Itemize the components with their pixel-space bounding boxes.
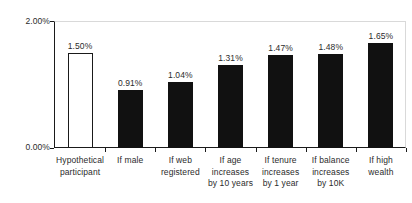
- x-axis-category-labels: HypotheticalparticipantIf maleIf webregi…: [55, 155, 406, 201]
- bar-value-label-3: 1.04%: [168, 70, 193, 80]
- y-axis-tickmark-bottom: [50, 148, 54, 149]
- bar-5[interactable]: [268, 55, 293, 148]
- y-axis-tickmark-top: [50, 21, 54, 22]
- y-axis-tick-label-max: 2.00%: [0, 16, 50, 26]
- bar-value-label-4: 1.31%: [218, 53, 243, 63]
- x-axis-tickmark-3: [205, 148, 206, 152]
- bar-6[interactable]: [318, 54, 343, 148]
- bar-value-label-2: 0.91%: [118, 78, 143, 88]
- bars-layer: 1.50%0.91%1.04%1.31%1.47%1.48%1.65%: [55, 21, 406, 148]
- x-axis-tickmark-7: [406, 148, 407, 152]
- category-label-line: by 10K: [302, 178, 360, 190]
- bar-chart: 2.00% 0.00% 1.50%0.91%1.04%1.31%1.47%1.4…: [0, 0, 412, 203]
- category-label-7: If highwealth: [352, 155, 410, 178]
- bar-4[interactable]: [218, 65, 243, 148]
- bar-slot: 1.47%: [268, 21, 293, 148]
- bar-slot: 0.91%: [118, 21, 143, 148]
- bar-slot: 1.65%: [368, 21, 393, 148]
- x-axis-tickmark-1: [105, 148, 106, 152]
- y-axis-tick-label-min: 0.00%: [0, 142, 50, 152]
- bar-value-label-7: 1.65%: [369, 31, 394, 41]
- bar-2[interactable]: [118, 90, 143, 148]
- bar-7[interactable]: [368, 43, 393, 148]
- x-axis-tickmark-6: [356, 148, 357, 152]
- bar-value-label-1: 1.50%: [68, 41, 93, 51]
- category-label-line: If high: [352, 155, 410, 167]
- x-axis-tickmark-2: [155, 148, 156, 152]
- bar-slot: 1.48%: [318, 21, 343, 148]
- category-label-line: participant: [51, 167, 109, 179]
- bar-1[interactable]: [68, 53, 93, 148]
- bar-slot: 1.50%: [68, 21, 93, 148]
- bar-slot: 1.31%: [218, 21, 243, 148]
- bar-value-label-5: 1.47%: [268, 43, 293, 53]
- bar-3[interactable]: [168, 82, 193, 148]
- bar-slot: 1.04%: [168, 21, 193, 148]
- bar-value-label-6: 1.48%: [318, 42, 343, 52]
- x-axis-tickmark-5: [306, 148, 307, 152]
- x-axis-tickmark-4: [256, 148, 257, 152]
- category-label-line: wealth: [352, 167, 410, 179]
- x-axis-tickmarks: [55, 148, 406, 152]
